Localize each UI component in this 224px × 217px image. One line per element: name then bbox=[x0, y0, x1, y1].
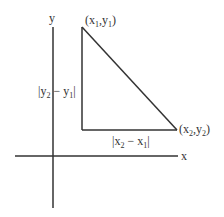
distance-diagram: y x (x1,y1) (x2,y2) |y2 − y1| |x2 − x1| bbox=[0, 0, 224, 217]
triangle-hypotenuse bbox=[82, 27, 177, 130]
vertical-distance-label: |y2 − y1| bbox=[38, 84, 76, 100]
y-axis-label: y bbox=[49, 11, 55, 25]
point-1-label: (x1,y1) bbox=[85, 13, 116, 29]
point-2-label: (x2,y2) bbox=[179, 122, 210, 138]
x-axis-label: x bbox=[181, 149, 187, 163]
horizontal-distance-label: |x2 − x1| bbox=[112, 134, 150, 150]
